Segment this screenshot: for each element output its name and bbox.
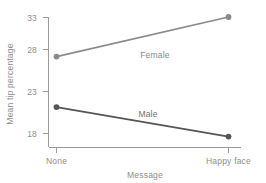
chart-container: Mean tip percentage 33 28 23 18 None Hap… bbox=[0, 0, 266, 183]
y-tick-label-28: 28 bbox=[27, 45, 37, 55]
y-tick-label-18: 18 bbox=[27, 129, 37, 139]
line-chart: Mean tip percentage 33 28 23 18 None Hap… bbox=[0, 0, 266, 183]
data-point-female-happy-face bbox=[226, 14, 232, 20]
y-tick-label-23: 23 bbox=[27, 87, 37, 97]
data-point-male-happy-face bbox=[226, 134, 232, 140]
y-tick-label-33: 33 bbox=[27, 13, 37, 23]
x-tick-label-none: None bbox=[46, 156, 67, 166]
y-axis-title: Mean tip percentage bbox=[5, 43, 15, 124]
data-point-male-none bbox=[54, 104, 60, 110]
x-tick-label-happy-face: Happy face bbox=[206, 156, 251, 166]
series-label-female: Female bbox=[140, 50, 170, 60]
series-label-male: Male bbox=[138, 109, 157, 119]
x-axis-title: Message bbox=[127, 170, 163, 180]
data-point-female-none bbox=[54, 54, 60, 60]
